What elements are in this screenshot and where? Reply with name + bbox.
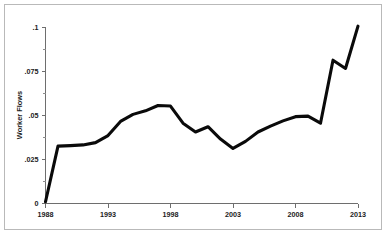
x-tick-label: 2013 (350, 210, 366, 219)
x-tick-label: 1993 (100, 210, 116, 219)
y-tick-label: .05 (29, 111, 39, 120)
y-axis-ticks (42, 27, 46, 204)
x-axis-ticks (46, 204, 359, 208)
chart-figure: 0.025.05.075.1 198819931998200320082013 … (0, 0, 387, 236)
x-tick-label: 1998 (163, 210, 179, 219)
y-tick-label: .075 (25, 67, 39, 76)
line-chart: 0.025.05.075.1 198819931998200320082013 … (0, 0, 387, 236)
y-axis-tick-labels: 0.025.05.075.1 (25, 23, 39, 209)
y-axis-title: Worker Flows (15, 91, 24, 139)
data-series-line (46, 26, 359, 202)
axes (46, 27, 359, 204)
y-tick-label: .025 (25, 155, 39, 164)
x-tick-label: 1988 (38, 210, 54, 219)
x-axis-tick-labels: 198819931998200320082013 (38, 210, 367, 219)
x-tick-label: 2008 (288, 210, 304, 219)
y-tick-label: 0 (35, 199, 39, 208)
y-tick-label: .1 (33, 23, 39, 32)
x-tick-label: 2003 (225, 210, 241, 219)
